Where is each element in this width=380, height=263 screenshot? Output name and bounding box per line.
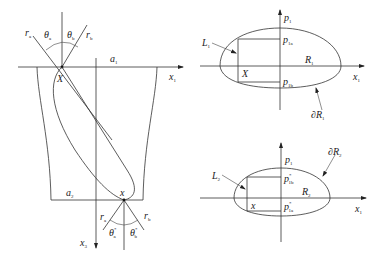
label-ra-top: ra bbox=[25, 27, 32, 39]
label-ra-bottom: ra bbox=[100, 211, 107, 223]
right-wall bbox=[143, 67, 157, 200]
phase-space-diagram: ra θa θb rb a1 x1 X a2 x ra rb θ*a θ*b x… bbox=[0, 0, 380, 263]
ray-ra-bottom bbox=[103, 200, 124, 230]
arrow-dR2 bbox=[323, 155, 335, 176]
ray-ra-top bbox=[33, 36, 112, 140]
boundary-dR2 bbox=[234, 168, 330, 216]
label-p1a-star: p*1a bbox=[283, 201, 294, 213]
ray-rb-top bbox=[62, 25, 87, 67]
label-x3: x3 bbox=[79, 237, 87, 249]
label-x1-top-right: x1 bbox=[352, 71, 360, 83]
label-theta-a-top: θa bbox=[44, 29, 52, 41]
left-wall bbox=[37, 67, 51, 200]
label-dR2: ∂R2 bbox=[328, 146, 342, 158]
label-p1b: p1b bbox=[282, 76, 294, 88]
label-p1-top: p1 bbox=[283, 12, 292, 24]
label-p1-bottom: p1 bbox=[284, 154, 293, 166]
label-x-point: x bbox=[119, 187, 125, 198]
label-dR1: ∂R1 bbox=[311, 109, 325, 121]
label-x-bottom-right: x bbox=[250, 200, 256, 211]
label-rb-bottom: rb bbox=[144, 210, 151, 222]
label-a1: a1 bbox=[110, 53, 118, 65]
point-x bbox=[123, 199, 126, 202]
label-L1: L1 bbox=[201, 37, 211, 49]
left-channel-diagram: ra θa θb rb a1 x1 X a2 x ra rb θ*a θ*b x… bbox=[18, 12, 183, 250]
phase-space-R2: p1 ∂R2 L2 p*1b R2 x x1 p*1a bbox=[200, 143, 366, 242]
label-p1b-star: p*1b bbox=[283, 173, 294, 185]
trajectory-left bbox=[53, 67, 124, 200]
label-X-top-right: X bbox=[241, 68, 249, 79]
label-L2: L2 bbox=[211, 170, 221, 182]
phase-space-R1: p1 L1 p1a R1 X x1 p1b ∂R1 bbox=[200, 10, 364, 121]
label-X-left: X bbox=[56, 73, 64, 84]
label-p1a: p1a bbox=[282, 34, 294, 46]
label-theta-b-bottom: θ*b bbox=[130, 227, 138, 239]
label-R2: R2 bbox=[301, 186, 311, 198]
label-x1-bottom-right: x1 bbox=[354, 203, 362, 215]
label-a2: a2 bbox=[66, 187, 74, 199]
label-x1-left: x1 bbox=[168, 71, 176, 83]
ray-rb-bottom bbox=[124, 200, 144, 230]
label-rb-top: rb bbox=[86, 29, 93, 41]
label-theta-a-bottom: θ*a bbox=[109, 227, 117, 239]
label-R1: R1 bbox=[304, 54, 314, 66]
label-theta-b-top: θb bbox=[67, 29, 75, 41]
arrow-dR1 bbox=[316, 88, 322, 110]
arrow-L2 bbox=[222, 175, 245, 189]
